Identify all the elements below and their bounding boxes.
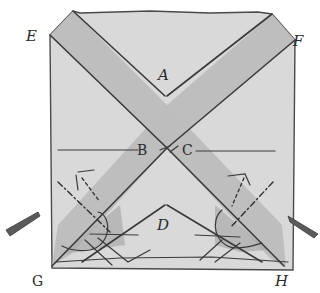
label-h: H <box>274 272 289 290</box>
label-a: A <box>156 66 169 84</box>
label-f: F <box>292 32 304 50</box>
label-d: D <box>156 216 169 234</box>
label-c: C <box>182 142 193 158</box>
left-push-arrow <box>6 212 40 236</box>
origami-fold-diagram: A B C D E F G H <box>0 0 320 293</box>
label-e: E <box>25 27 37 45</box>
label-b: B <box>137 142 147 158</box>
label-g: G <box>32 273 43 289</box>
